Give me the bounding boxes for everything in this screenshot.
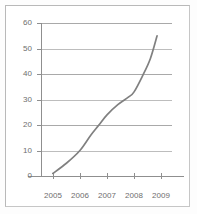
series-layer <box>0 0 197 214</box>
line-series-1 <box>53 36 157 174</box>
chart-figure: 0102030405060 20052006200720082009 <box>0 0 197 214</box>
